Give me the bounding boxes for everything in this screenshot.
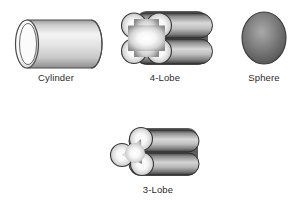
shape-cell-sphere: Sphere: [226, 6, 302, 92]
shape-label-sphere: Sphere: [226, 72, 302, 83]
shape-label-three-lobe: 3-Lobe: [108, 184, 208, 195]
shape-label-cylinder: Cylinder: [4, 72, 108, 83]
catalyst-shapes-figure: Cylinder: [0, 0, 306, 212]
shape-cell-three-lobe: 3-Lobe: [108, 122, 208, 204]
shape-cell-four-lobe: 4-Lobe: [112, 6, 218, 92]
trefoil-extrudate-shape-icon: [108, 122, 208, 182]
quatrefoil-extrudate-shape-icon: [112, 6, 218, 70]
shape-cell-cylinder: Cylinder: [4, 6, 108, 92]
sphere-shape-icon: [226, 6, 302, 70]
cylinder-shape-icon: [4, 6, 108, 70]
shape-label-four-lobe: 4-Lobe: [112, 72, 218, 83]
